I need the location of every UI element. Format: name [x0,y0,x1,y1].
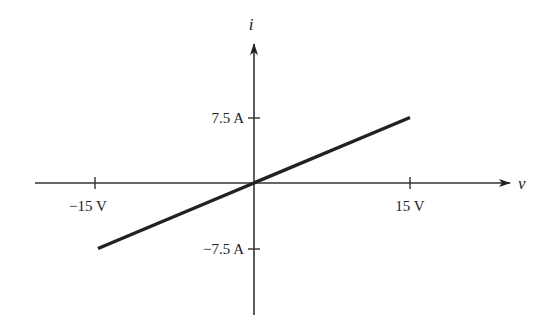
y-axis-label: i [249,15,254,34]
y-tick-label-neg7.5: −7.5 A [203,241,244,257]
iv-chart: i v 7.5 A −7.5 A −15 V 15 V [0,0,558,328]
x-tick-label-15: 15 V [395,198,424,214]
x-tick-label-neg15: −15 V [69,198,107,214]
y-tick-label-7.5: 7.5 A [211,110,244,126]
x-axis-label: v [518,174,526,193]
